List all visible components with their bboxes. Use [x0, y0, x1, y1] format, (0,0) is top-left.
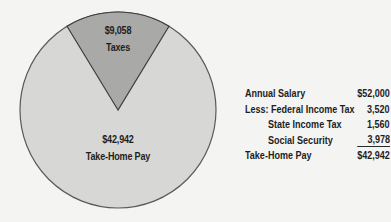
take-home-name: Take-Home Pay [77, 150, 159, 163]
table-row-social-security: Social Security 3,978 [245, 133, 391, 149]
take-home-slice-label: $42,942 Take-Home Pay [77, 133, 159, 163]
row-label: Less: Federal Income Tax [245, 102, 355, 118]
table-row-federal-income-tax: Less: Federal Income Tax 3,520 [245, 102, 391, 118]
row-value: 3,978 [357, 133, 390, 148]
table-row-take-home-pay: Take-Home Pay $42,942 [245, 148, 391, 164]
row-value: $42,942 [357, 148, 390, 164]
taxes-name: Taxes [85, 41, 151, 54]
row-label: Annual Salary [245, 86, 305, 102]
row-label: State Income Tax [268, 117, 342, 133]
row-label: Social Security [268, 133, 333, 149]
row-label: Take-Home Pay [245, 148, 312, 164]
row-value: 3,520 [367, 102, 390, 118]
taxes-amount: $9,058 [105, 24, 132, 36]
row-value: $52,000 [357, 86, 390, 102]
table-row-annual-salary: Annual Salary $52,000 [245, 86, 391, 102]
take-home-amount: $42,942 [102, 133, 133, 145]
row-value: 1,560 [367, 117, 390, 133]
salary-summary-table: Annual Salary $52,000 Less: Federal Inco… [245, 86, 391, 164]
taxes-slice-label: $9,058 Taxes [85, 24, 151, 54]
table-row-state-income-tax: State Income Tax 1,560 [245, 117, 391, 133]
